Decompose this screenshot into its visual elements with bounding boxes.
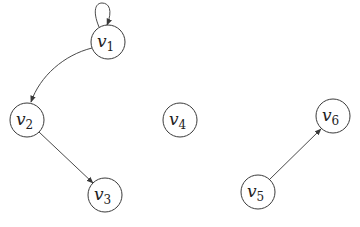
node-v2: v2 bbox=[10, 103, 44, 137]
node-v6-sub: 6 bbox=[332, 114, 340, 128]
node-v5-base: v bbox=[247, 181, 257, 201]
node-v2-sub: 2 bbox=[26, 118, 34, 132]
node-v6: v6 bbox=[316, 99, 350, 133]
graph-diagram: v1 v2 v3 v4 v5 v6 bbox=[0, 0, 360, 227]
node-v4-sub: 4 bbox=[179, 118, 187, 132]
node-v3-base: v bbox=[94, 184, 104, 204]
node-v1-base: v bbox=[97, 31, 107, 51]
node-v6-base: v bbox=[322, 105, 332, 125]
node-v1-sub: 1 bbox=[107, 40, 115, 54]
node-v5-sub: 5 bbox=[257, 190, 265, 204]
node-v1: v1 bbox=[91, 25, 125, 59]
node-v4: v4 bbox=[163, 103, 197, 137]
node-v4-base: v bbox=[169, 109, 179, 129]
node-v3: v3 bbox=[88, 178, 122, 212]
node-v3-sub: 3 bbox=[104, 193, 112, 207]
edge-v2-v3 bbox=[39, 132, 93, 183]
edge-v1-v2 bbox=[31, 48, 92, 102]
edge-v1-v1-self-loop bbox=[95, 3, 110, 27]
node-v2-base: v bbox=[16, 109, 26, 129]
node-v5: v5 bbox=[241, 175, 275, 209]
edge-v5-v6 bbox=[269, 129, 321, 180]
